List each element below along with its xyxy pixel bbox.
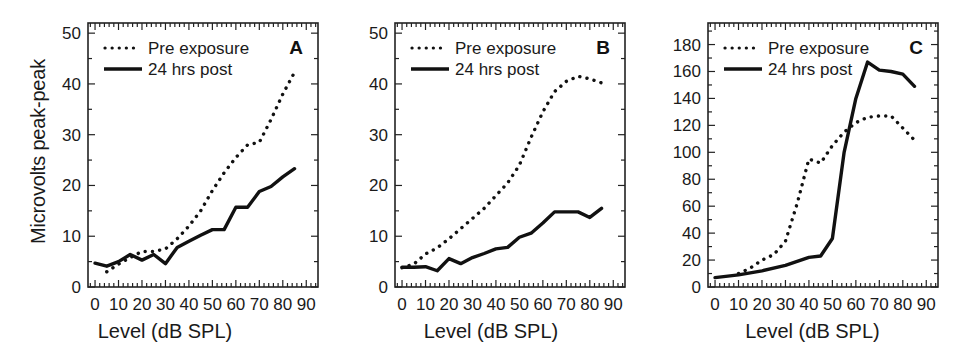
x-tick-label: 0	[397, 295, 406, 310]
y-tick-label: 40	[682, 224, 701, 243]
x-tick-label: 40	[486, 295, 505, 310]
y-tick-label: 10	[62, 227, 81, 246]
y-tick-label: 50	[62, 24, 81, 43]
panel-c-yticks-right	[931, 31, 938, 287]
panel-a-legend: Pre exposure 24 hrs post	[104, 39, 249, 79]
x-tick-label: 90	[604, 295, 623, 310]
legend-post-label: 24 hrs post	[455, 60, 539, 79]
y-tick-label: 40	[62, 75, 81, 94]
x-tick-label: 70	[250, 295, 269, 310]
y-tick-label: 50	[369, 24, 388, 43]
x-tick-label: 80	[580, 295, 599, 310]
x-tick-label: 80	[273, 295, 292, 310]
panel-c-xticks-top	[710, 23, 935, 30]
y-tick-label: 40	[369, 75, 388, 94]
panel-b-series-pre-exposure	[402, 76, 601, 267]
panel-a-x-axis-label: Level (dB SPL)	[0, 320, 330, 343]
panel-a: 01020304050 0102030405060708090 Pre expo…	[0, 0, 330, 351]
x-tick-label: 20	[753, 295, 772, 310]
x-tick-label: 20	[133, 295, 152, 310]
figure-root: Microvolts peak-peak 01020304050 0102030…	[0, 0, 973, 351]
x-tick-label: 10	[416, 295, 435, 310]
panel-c-ytick-labels: 020406080100120140160180	[673, 36, 701, 297]
y-tick-label: 30	[62, 126, 81, 145]
x-tick-label: 50	[203, 295, 222, 310]
x-tick-label: 70	[557, 295, 576, 310]
y-tick-label: 0	[72, 278, 81, 297]
legend-pre-label: Pre exposure	[148, 39, 249, 58]
x-tick-label: 0	[710, 295, 719, 310]
panel-c: 020406080100120140160180 010203040506070…	[652, 0, 973, 351]
legend-pre-label: Pre exposure	[768, 39, 869, 58]
x-tick-label: 10	[109, 295, 128, 310]
legend-post-label: 24 hrs post	[148, 60, 232, 79]
x-tick-label: 20	[440, 295, 459, 310]
x-tick-label: 90	[297, 295, 316, 310]
x-tick-label: 60	[226, 295, 245, 310]
panel-b-yticks-right	[618, 33, 625, 287]
legend-pre-label: Pre exposure	[455, 39, 556, 58]
panel-letter-c: C	[909, 37, 923, 58]
y-tick-label: 180	[673, 36, 701, 55]
panel-b-legend: Pre exposure 24 hrs post	[411, 39, 556, 79]
y-tick-label: 0	[692, 278, 701, 297]
x-tick-label: 60	[846, 295, 865, 310]
panel-a-plot: 01020304050 0102030405060708090 Pre expo…	[0, 0, 330, 310]
panel-c-xticks-bottom	[710, 280, 935, 287]
panel-c-yticks-left	[708, 31, 715, 287]
panel-a-series-pre-exposure	[107, 72, 295, 272]
x-tick-label: 30	[156, 295, 175, 310]
panel-b-xtick-labels: 0102030405060708090	[397, 295, 622, 310]
panel-a-yticks-left	[88, 33, 95, 287]
x-tick-label: 40	[179, 295, 198, 310]
y-tick-label: 20	[62, 176, 81, 195]
panel-b-plot: 01020304050 0102030405060708090 Pre expo…	[330, 0, 652, 310]
x-tick-label: 60	[533, 295, 552, 310]
panel-b-xticks-bottom	[397, 280, 622, 287]
y-tick-label: 100	[673, 143, 701, 162]
panel-letter-b: B	[596, 37, 610, 58]
y-tick-label: 30	[369, 126, 388, 145]
y-tick-label: 160	[673, 62, 701, 81]
panel-a-xticks-top	[90, 23, 315, 30]
legend-post-label: 24 hrs post	[768, 60, 852, 79]
y-tick-label: 0	[379, 278, 388, 297]
panel-c-legend: Pre exposure 24 hrs post	[724, 39, 869, 79]
x-tick-label: 10	[729, 295, 748, 310]
panel-c-series-24hrs-post	[715, 62, 914, 278]
panel-a-xticks-bottom	[90, 280, 315, 287]
panel-b-ytick-labels: 01020304050	[369, 24, 388, 297]
panel-b-yticks-left	[395, 33, 402, 287]
x-tick-label: 0	[90, 295, 99, 310]
y-tick-label: 140	[673, 89, 701, 108]
x-tick-label: 90	[917, 295, 936, 310]
panel-c-x-axis-label: Level (dB SPL)	[652, 320, 973, 343]
panel-b-series-24hrs-post	[402, 208, 601, 270]
x-tick-label: 70	[870, 295, 889, 310]
panel-b: 01020304050 0102030405060708090 Pre expo…	[330, 0, 652, 351]
panel-a-yticks-right	[311, 33, 318, 287]
y-tick-label: 20	[369, 176, 388, 195]
x-tick-label: 40	[799, 295, 818, 310]
y-tick-label: 60	[682, 197, 701, 216]
panel-a-series-24hrs-post	[95, 169, 294, 266]
y-tick-label: 80	[682, 170, 701, 189]
panel-b-x-axis-label: Level (dB SPL)	[330, 320, 652, 343]
x-tick-label: 80	[893, 295, 912, 310]
panel-a-xtick-labels: 0102030405060708090	[90, 295, 315, 310]
y-tick-label: 120	[673, 116, 701, 135]
panel-letter-a: A	[289, 37, 303, 58]
panel-a-ytick-labels: 01020304050	[62, 24, 81, 297]
panel-c-xtick-labels: 0102030405060708090	[710, 295, 935, 310]
panel-c-plot: 020406080100120140160180 010203040506070…	[652, 0, 973, 310]
panel-b-xticks-top	[397, 23, 622, 30]
x-tick-label: 50	[510, 295, 529, 310]
x-tick-label: 50	[823, 295, 842, 310]
y-tick-label: 20	[682, 251, 701, 270]
x-tick-label: 30	[463, 295, 482, 310]
x-tick-label: 30	[776, 295, 795, 310]
y-tick-label: 10	[369, 227, 388, 246]
